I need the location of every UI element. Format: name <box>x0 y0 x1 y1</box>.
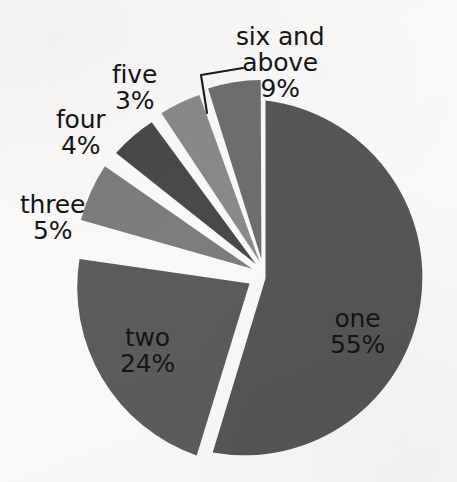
pie-label-six-percent: 9% <box>236 76 324 102</box>
pie-label-one-name: one <box>330 306 385 332</box>
pie-label-two: two 24% <box>120 325 175 377</box>
pie-label-four: four 4% <box>56 107 105 159</box>
pie-label-five-name: five <box>112 62 157 88</box>
pie-label-three-name: three <box>20 192 85 218</box>
pie-label-four-name: four <box>56 107 105 133</box>
pie-label-five: five 3% <box>112 62 157 114</box>
pie-label-six-name-line2: above <box>236 50 324 76</box>
pie-label-four-percent: 4% <box>56 133 105 159</box>
pie-label-five-percent: 3% <box>112 88 157 114</box>
pie-label-two-percent: 24% <box>120 351 175 377</box>
pie-chart-figure: one 55% two 24% three 5% four 4% five 3%… <box>0 0 457 482</box>
pie-label-two-name: two <box>120 325 175 351</box>
pie-label-one: one 55% <box>330 306 385 358</box>
pie-label-six-name-line1: six and <box>236 24 324 50</box>
pie-label-one-percent: 55% <box>330 332 385 358</box>
pie-label-three: three 5% <box>20 192 85 244</box>
pie-label-six-and-above: six and above 9% <box>236 24 324 102</box>
pie-label-three-percent: 5% <box>20 218 85 244</box>
